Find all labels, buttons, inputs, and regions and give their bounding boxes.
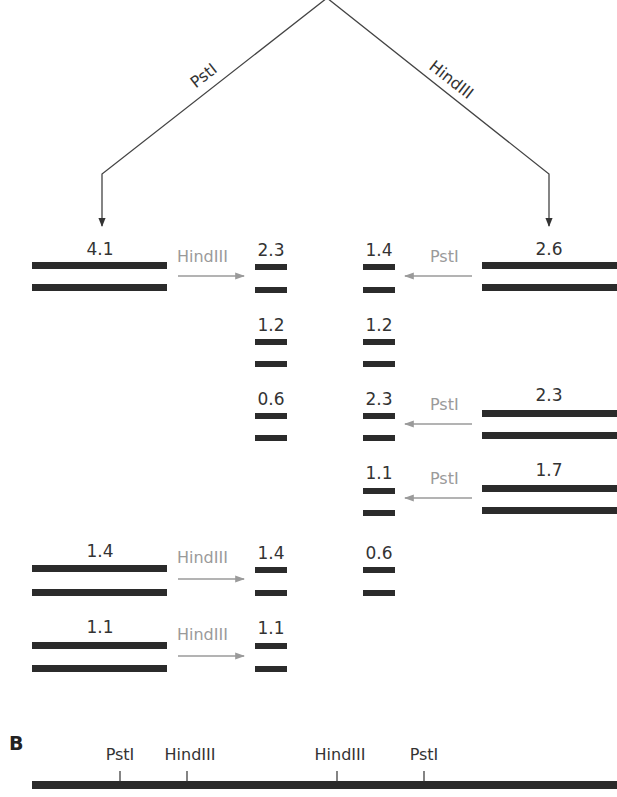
fragment-label: 1.1 [365, 463, 392, 483]
band [255, 287, 287, 293]
fragment-label: 1.1 [257, 618, 284, 638]
dna-strand-bar [32, 781, 617, 789]
band [32, 665, 167, 672]
right-small-column: 1.4 1.2 2.3 1.1 0.6 [363, 240, 395, 596]
pstI-branch-line [102, 0, 327, 226]
band [363, 590, 395, 596]
band [482, 284, 617, 291]
secondary-enzyme-label: PstI [430, 395, 459, 414]
right-secondary-digest-arrows: PstI PstI PstI [405, 247, 472, 498]
restriction-mapping-diagram: PstI HindIII 4.1 1.4 1.1 HindIII HindIII… [0, 0, 617, 797]
band [255, 590, 287, 596]
band [363, 361, 395, 367]
fragment-label: 2.3 [257, 240, 284, 260]
site-label: HindIII [165, 745, 216, 764]
band [482, 485, 617, 492]
pstI-branch-label: PstI [186, 59, 220, 92]
fragment-label: 2.3 [535, 385, 562, 405]
band [363, 413, 395, 419]
digest-tree: PstI HindIII [102, 0, 549, 226]
fragment-label: 1.1 [86, 617, 113, 637]
fragment-label: 1.4 [365, 240, 392, 260]
band [32, 642, 167, 649]
band [363, 435, 395, 441]
right-large-fragments: 2.6 2.3 1.7 [482, 239, 617, 514]
fragment-label: 2.6 [535, 239, 562, 259]
band [363, 264, 395, 270]
secondary-enzyme-label: HindIII [177, 625, 228, 644]
fragment-label: 1.4 [257, 543, 284, 563]
secondary-enzyme-label: PstI [430, 247, 459, 266]
band [255, 413, 287, 419]
secondary-enzyme-label: HindIII [177, 548, 228, 567]
secondary-enzyme-label: HindIII [177, 247, 228, 266]
band [482, 410, 617, 417]
panel-b-restriction-map: B PstI HindIII HindIII PstI [9, 732, 617, 789]
band [255, 339, 287, 345]
band [255, 435, 287, 441]
fragment-label: 0.6 [365, 543, 392, 563]
band [255, 264, 287, 270]
left-large-fragments: 4.1 1.4 1.1 [32, 239, 167, 672]
fragment-label: 1.7 [535, 460, 562, 480]
band [255, 666, 287, 672]
band [255, 643, 287, 649]
band [482, 262, 617, 269]
band [363, 567, 395, 573]
fragment-label: 2.3 [365, 389, 392, 409]
fragment-label: 1.2 [365, 315, 392, 335]
band [363, 488, 395, 494]
site-label: PstI [106, 745, 135, 764]
fragment-label: 0.6 [257, 389, 284, 409]
band [363, 510, 395, 516]
site-label: PstI [410, 745, 439, 764]
panel-b-label: B [9, 732, 23, 754]
band [482, 432, 617, 439]
fragment-label: 4.1 [86, 239, 113, 259]
band [32, 262, 167, 269]
secondary-enzyme-label: PstI [430, 469, 459, 488]
band [32, 284, 167, 291]
hindIII-branch-line [327, 0, 549, 226]
band [363, 287, 395, 293]
band [363, 339, 395, 345]
band [255, 361, 287, 367]
band [255, 567, 287, 573]
band [32, 565, 167, 572]
left-secondary-digest-arrows: HindIII HindIII HindIII [177, 247, 244, 656]
site-label: HindIII [315, 745, 366, 764]
band [32, 589, 167, 596]
band [482, 507, 617, 514]
left-small-column: 2.3 1.2 0.6 1.4 1.1 [255, 240, 287, 672]
fragment-label: 1.2 [257, 315, 284, 335]
fragment-label: 1.4 [86, 541, 113, 561]
